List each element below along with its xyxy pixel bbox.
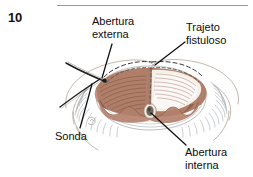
label-trajeto-fistuloso: Trajeto fistuloso <box>186 21 226 46</box>
leader-trajeto-fistuloso <box>155 42 185 65</box>
figure-container: 10 <box>0 0 253 177</box>
label-abertura-interna-line2: interna <box>185 159 227 172</box>
label-abertura-externa: Abertura externa <box>92 15 134 40</box>
label-abertura-interna-line1: Abertura <box>185 146 227 159</box>
leader-abertura-externa <box>102 44 112 78</box>
label-sonda-line1: Sonda <box>55 130 87 143</box>
perianal-detail <box>88 117 95 124</box>
label-abertura-externa-line2: externa <box>92 28 134 41</box>
label-sonda: Sonda <box>55 130 87 143</box>
label-abertura-interna: Abertura interna <box>185 146 227 171</box>
label-abertura-externa-line1: Abertura <box>92 15 134 28</box>
label-trajeto-fistuloso-line2: fistuloso <box>186 34 226 47</box>
label-trajeto-fistuloso-line1: Trajeto <box>186 21 226 34</box>
